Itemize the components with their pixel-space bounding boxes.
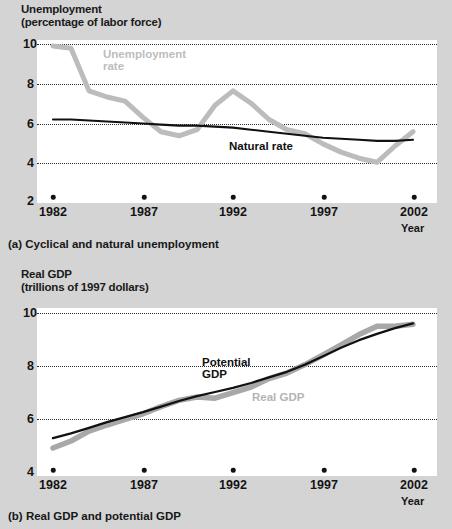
panel-b-ytick-6: 6 (27, 412, 34, 426)
panel-b-ytick-10: 10 (23, 306, 37, 320)
label-unemployment-rate-line2: rate (103, 60, 124, 72)
panel-b-xdot-1982 (51, 468, 56, 473)
panel-a-xlabel-1982: 1982 (39, 205, 67, 219)
panel-a-series-svg (37, 40, 437, 203)
panel-a-xdot-1987 (142, 195, 147, 200)
panel-a-xdot-1997 (322, 195, 327, 200)
panel-b-xdot-1987 (142, 468, 147, 473)
panel-b-xlabel-1997: 1997 (310, 478, 338, 492)
panel-a-ytick-2: 2 (27, 194, 34, 208)
panel-a-xlabel-2002: 2002 (400, 205, 428, 219)
panel-a-xlabel-1997: 1997 (310, 205, 338, 219)
panel-b-axis-title: Real GDP (trillions of 1997 dollars) (21, 268, 149, 293)
panel-a-axis-title-line2: (percentage of labor force) (21, 16, 161, 28)
panel-b-axis-title-line2: (trillions of 1997 dollars) (21, 281, 149, 293)
label-potential-gdp: Potential GDP (202, 356, 251, 381)
panel-a-ytick-4: 4 (27, 156, 34, 170)
panel-a-xlabel-1987: 1987 (130, 205, 158, 219)
panel-b-axis-title-line1: Real GDP (21, 268, 72, 280)
panel-b-series-svg (37, 308, 437, 476)
panel-b-xlabel-1982: 1982 (39, 478, 67, 492)
panel-a-ytick-8: 8 (27, 77, 34, 91)
panel-a-xdot-1982 (51, 195, 56, 200)
panel-b-xlabel-1987: 1987 (130, 478, 158, 492)
panel-a-xlabel-1992: 1992 (219, 205, 247, 219)
panel-b-caption: (b) Real GDP and potential GDP (8, 510, 181, 522)
label-potential-gdp-line2: GDP (202, 368, 227, 380)
panel-cyclical-unemployment: Unemployment (percentage of labor force)… (0, 0, 452, 256)
series-natural-rate (53, 120, 413, 141)
panel-a-plot-area: Unemployment rate Natural rate (37, 40, 437, 203)
label-natural-rate: Natural rate (229, 140, 293, 152)
panel-b-xlabel-2002: 2002 (400, 478, 428, 492)
series-real-gdp (53, 324, 413, 448)
panel-a-xaxis-name: Year (401, 222, 424, 234)
panel-a-ytick-10: 10 (23, 37, 37, 51)
panel-b-xdot-1992 (231, 468, 236, 473)
label-real-gdp: Real GDP (252, 391, 304, 403)
panel-a-ytick-6: 6 (27, 117, 34, 131)
panel-b-xdot-1997 (322, 468, 327, 473)
panel-a-xdot-1992 (231, 195, 236, 200)
panel-a-axis-title: Unemployment (percentage of labor force) (21, 3, 161, 28)
label-potential-gdp-line1: Potential (202, 356, 251, 368)
panel-b-ytick-8: 8 (27, 359, 34, 373)
panel-b-xaxis-name: Year (401, 495, 424, 507)
panel-a-axis-title-line1: Unemployment (21, 3, 102, 15)
panel-b-xlabel-1992: 1992 (219, 478, 247, 492)
label-unemployment-rate: Unemployment rate (103, 48, 186, 73)
panel-b-ytick-4: 4 (27, 465, 34, 479)
label-unemployment-rate-line1: Unemployment (103, 48, 186, 60)
panel-b-xdot-2002 (412, 468, 417, 473)
panel-a-caption: (a) Cyclical and natural unemployment (8, 238, 219, 250)
panel-b-plot-area: Potential GDP Real GDP (37, 308, 437, 476)
panel-a-xdot-2002 (412, 195, 417, 200)
